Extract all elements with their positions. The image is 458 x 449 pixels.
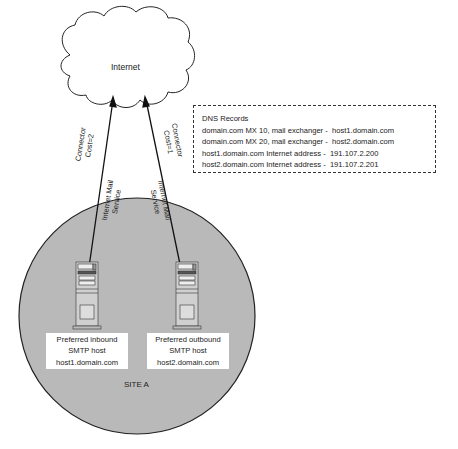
dns-record: domain.com MX 10, mail exchanger - host1… <box>202 125 435 137</box>
site-label: SITE A <box>124 379 149 390</box>
dns-records-box: DNS Records domain.com MX 10, mail excha… <box>193 105 436 173</box>
host1-label-box: Preferred inbound SMTP host host1.domain… <box>46 333 128 369</box>
server-icon <box>173 262 201 329</box>
dns-record: host2.domain.com Internet address - 191.… <box>202 159 435 171</box>
server-icon <box>73 262 101 329</box>
diagram-canvas <box>0 0 458 449</box>
dns-record: host1.domain.com Internet address - 191.… <box>202 148 435 160</box>
internet-cloud <box>61 6 195 107</box>
dns-title: DNS Records <box>202 113 435 125</box>
site-a-circle <box>19 198 255 434</box>
dns-record: domain.com MX 20, mail exchanger - host2… <box>202 136 435 148</box>
host2-label-box: Preferred outbound SMTP host host2.domai… <box>147 333 229 369</box>
internet-label: Internet <box>111 62 140 73</box>
